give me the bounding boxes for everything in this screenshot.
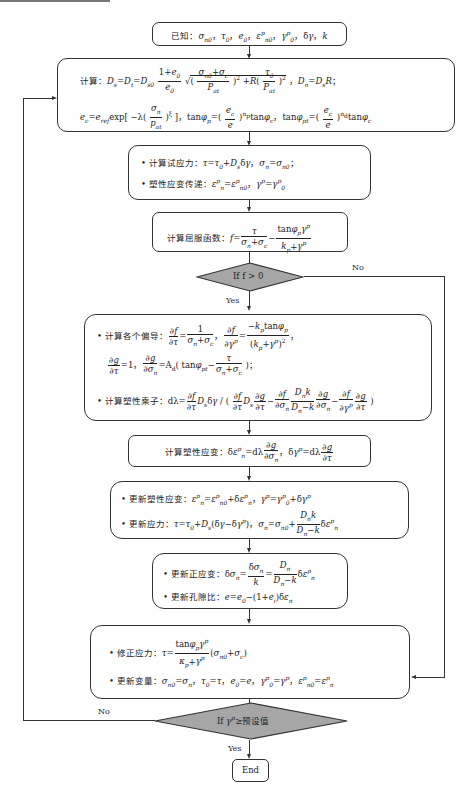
arrow-down: [247, 619, 251, 624]
yield-function-box: 计算屈服函数：f=τσn+σc−tanφpγpkp+γp: [152, 212, 348, 252]
compute-line-1: 计算：Ds=Dt=Ds0 1+e0e0 √( σn0+σcPat )2 +R( …: [80, 67, 341, 95]
trial-stress-box: • 计算试应力：τ=τ0+Dsδγ，σn=σn0； • 塑性应变传递：εpn=ε…: [128, 145, 371, 200]
decision-2-yes-label: Yes: [228, 744, 241, 753]
loop-back-line: [23, 720, 155, 721]
strain-transfer-line: • 塑性应变传递：εpn=εpn0，γp=γp0: [141, 177, 285, 191]
decision-1-text: If f > 0: [233, 271, 263, 281]
update-variables-line: • 更新变量：σn0=σn，τ0=τ，e0=e，γp0=γp，εpn0=εpn: [109, 674, 334, 688]
decision-1-no-label: No: [352, 263, 364, 272]
end-box: End: [232, 759, 269, 782]
derivatives-line-1: • 计算各个偏导：∂f∂τ=1σn+σc，∂f∂γp=−kptanφp(kp+γ…: [97, 321, 299, 352]
start-box: 已知：σn0，τ0，e0，εpn0，γp0，δγ，k: [152, 22, 347, 46]
page-top-rule: [0, 0, 110, 2]
decision-1-yes-label: Yes: [226, 296, 239, 305]
arrow-right: [52, 96, 57, 100]
update-plastic-strain-line: • 更新塑性应变：εpn=εpn0+δεpn，γp=γp0+δγp: [121, 492, 311, 506]
arrow-down: [247, 306, 251, 311]
no-branch-line: [444, 276, 445, 677]
update-void-ratio-line: • 更新孔隙比：e=e0−(1+ei)δεn: [163, 590, 293, 604]
plastic-strain-text: 计算塑性应变：δεpn=dλ∂g∂σn，δγp=dλ∂g∂τ: [129, 440, 370, 465]
start-text: 已知：σn0，τ0，e0，εpn0，γp0，δγ，k: [153, 29, 346, 43]
no-branch-line: [304, 276, 445, 277]
trial-stress-line: • 计算试应力：τ=τ0+Dsδγ，σn=σn0；: [141, 156, 299, 170]
update-normal-strain-line: • 更新正应变：δσn=δσnk=DnDn−kδεpn: [163, 560, 315, 588]
end-text: End: [233, 765, 268, 775]
yield-function-text: 计算屈服函数：f=τσn+σc−tanφpγpkp+γp: [167, 221, 312, 255]
decision-2-text: If γp≥预设值: [217, 714, 269, 726]
update-strain-box: • 更新正应变：δσn=δσnk=DnDn−kδεpn • 更新孔隙比：e=e0…: [152, 553, 348, 609]
plastic-multiplier-line: • 计算塑性乘子：dλ=∂f∂τDsδγ / ( ∂f∂τDs∂g∂τ−∂f∂σ…: [97, 387, 374, 415]
derivatives-box: • 计算各个偏导：∂f∂τ=1σn+σc，∂f∂γp=−kptanφp(kp+γ…: [84, 314, 432, 421]
decision-2-no-label: No: [98, 707, 110, 716]
compute-line-2: ec=erefexp[ −λ( σnpat )ξ ]，tanφp=( ece )…: [80, 103, 371, 131]
update-plastic-box: • 更新塑性应变：εpn=εpn0+δεpn，γp=γp0+δγp • 更新应力…: [110, 481, 409, 539]
compute-box: 计算：Ds=Dt=Ds0 1+e0e0 √( σn0+σcPat )2 +R( …: [57, 58, 455, 132]
plastic-strain-box: 计算塑性应变：δεpn=dλ∂g∂σn，δγp=dλ∂g∂τ: [128, 435, 371, 467]
derivatives-line-2: ∂g∂τ=1，∂g∂σn=Ad( tanφpt−τσn+σc )；: [107, 353, 258, 378]
correct-stress-box: • 修正应力：τ=tanφpγpκp+γp(σn0+σc) • 更新变量：σn0…: [90, 625, 410, 699]
no-branch-line: [416, 677, 445, 678]
connector: [249, 740, 250, 755]
loop-back-line: [23, 98, 24, 721]
arrow-left: [411, 675, 416, 679]
correct-stress-line: • 修正应力：τ=tanφpγpκp+γp(σn0+σc): [109, 636, 247, 670]
loop-back-line: [23, 98, 53, 99]
update-stress-line: • 更新应力：τ=τ0+Ds(δγ−δγp)，σn=σn0+DnkDn−kδεp…: [121, 510, 338, 538]
